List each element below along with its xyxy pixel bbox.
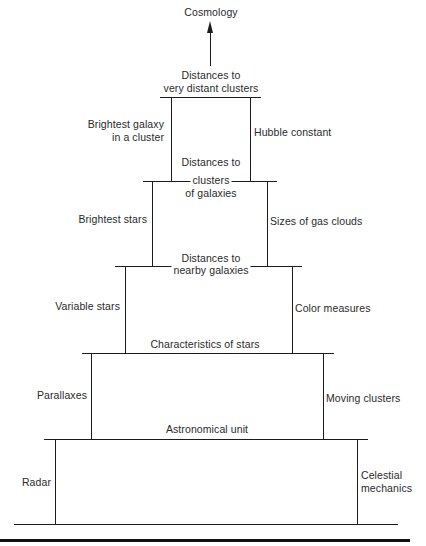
tier5-top-label: Astronomical unit [166, 423, 248, 436]
tier3-right-method: Color measures [295, 302, 371, 315]
tier5-bar [44, 439, 368, 441]
tier1-left-method-line2: in a cluster [112, 131, 164, 144]
tier1-right-post [250, 97, 252, 182]
arrow-shaft [210, 30, 212, 66]
tier2-right-method: Sizes of gas clouds [270, 215, 362, 228]
tier4-bar [82, 353, 334, 355]
tier5-right-method-line2: mechanics [361, 482, 412, 495]
tier4-left-post [91, 353, 93, 440]
tier3-left-method: Variable stars [55, 300, 120, 313]
tier1-top-label-line2: very distant clusters [164, 82, 259, 95]
tier2-top-label-line2: clusters [191, 174, 232, 187]
tier4-right-method: Moving clusters [326, 392, 400, 405]
tier4-top-label: Characteristics of stars [150, 338, 259, 351]
tier2-right-post [267, 181, 269, 267]
tier5-left-post [55, 439, 57, 524]
bottom-rule [0, 539, 410, 542]
tier1-bar [160, 97, 261, 99]
tier5-right-post [357, 439, 359, 524]
tier5-left-method: Radar [22, 476, 51, 489]
tier1-left-method-line1: Brightest galaxy [88, 118, 164, 131]
tier1-right-method: Hubble constant [254, 126, 331, 139]
tier2-left-method: Brightest stars [78, 213, 147, 226]
tier3-top-label-line2: nearby galaxies [171, 264, 250, 277]
ground-line [14, 524, 398, 526]
tier1-top-label-line1: Distances to [182, 69, 241, 82]
tier5-right-method-line1: Celestial [361, 469, 402, 482]
tier3-left-post [125, 266, 127, 354]
cosmology-label: Cosmology [184, 6, 237, 19]
tier2-top-label-line3: of galaxies [185, 187, 236, 200]
tier4-right-post [323, 353, 325, 440]
tier4-left-method: Parallaxes [37, 389, 87, 402]
tier3-right-post [292, 266, 294, 354]
tier2-top-label-line1: Distances to [182, 156, 241, 169]
tier2-left-post [152, 181, 154, 267]
tier1-left-post [171, 97, 173, 182]
